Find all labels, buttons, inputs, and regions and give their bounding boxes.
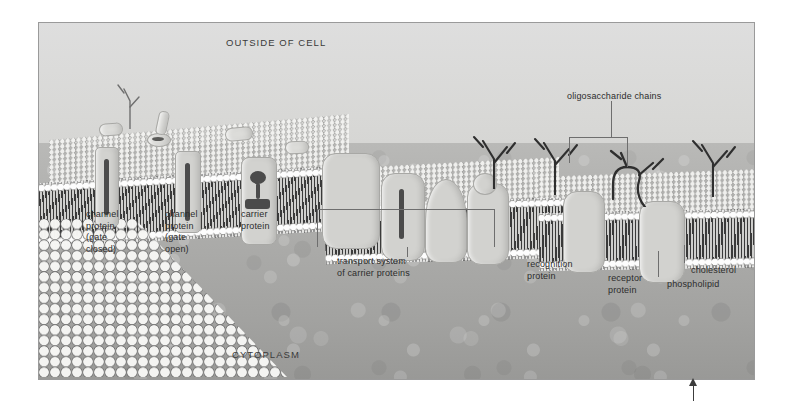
oligosaccharide-chain-5 <box>689 135 737 197</box>
cholesterol-leader-line <box>684 245 685 263</box>
peripheral-protein-d <box>285 140 310 154</box>
phospholipid-leader-line <box>658 251 659 277</box>
membrane-pore-a-opening <box>152 137 164 141</box>
transport-bracket-left-stem <box>317 209 318 247</box>
oligosaccharide-bracket-left-stem <box>569 137 570 163</box>
transport-protein-1 <box>322 153 380 249</box>
transport-protein-4 <box>467 183 509 265</box>
outside-of-cell-label: OUTSIDE OF CELL <box>226 37 326 49</box>
carrier-protein-label: carrier protein <box>241 209 270 232</box>
oligosaccharide-leader-line <box>611 101 612 137</box>
bottom-pointer-arrowhead <box>689 378 697 386</box>
recognition-protein-label: recognition protein <box>527 259 573 282</box>
phospholipid-label: phospholipid <box>667 279 719 291</box>
oligosaccharide-chains-label: oligosaccharide chains <box>567 91 661 103</box>
cell-membrane-illustration: OUTSIDE OF CELL CYTOPLASM channel protei… <box>38 22 755 380</box>
oligosaccharide-chain-4 <box>605 141 665 207</box>
oligosaccharide-bracket-top <box>569 137 627 138</box>
oligosaccharide-bracket-right-stem <box>627 137 628 167</box>
transport-protein-2-channel <box>399 189 404 239</box>
cytoplasm-label: CYTOPLASM <box>232 349 300 361</box>
transport-system-label: transport system of carrier proteins <box>337 256 410 279</box>
figure-canvas: OUTSIDE OF CELL CYTOPLASM channel protei… <box>0 0 788 401</box>
bottom-pointer-stem <box>693 386 694 401</box>
oligosaccharide-chain-2 <box>471 129 517 189</box>
channel-protein-gate-open-label: channel protein (gate open) <box>165 209 198 255</box>
carrier-protein-channel <box>256 183 260 199</box>
receptor-protein-label: receptor protein <box>608 273 642 296</box>
oligosaccharide-chain-3 <box>531 133 579 195</box>
transport-bracket-right-stem <box>494 209 495 247</box>
receptor-protein <box>639 201 685 283</box>
channel-gate-closed-slit <box>104 159 109 215</box>
transport-bracket-top <box>317 209 495 210</box>
channel-protein-gate-closed-label: channel protein (gate closed) <box>86 209 119 255</box>
cholesterol-label: cholesterol <box>691 265 736 277</box>
oligosaccharide-chain-1 <box>115 71 145 129</box>
carrier-protein-cavity <box>245 199 270 209</box>
transport-protein-3 <box>425 179 467 263</box>
